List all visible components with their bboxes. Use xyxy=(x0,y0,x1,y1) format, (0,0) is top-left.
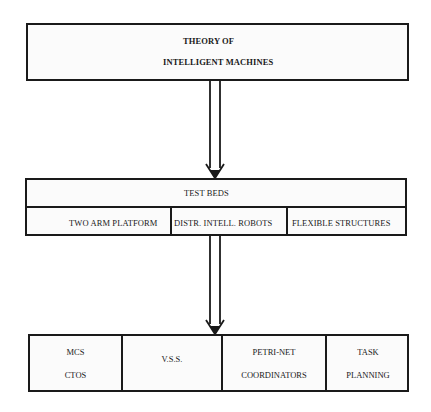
cell-petri-net-line1: PETRI-NET xyxy=(253,347,296,357)
cell-mcs-ctos-line2: CTOS xyxy=(65,370,87,380)
cell-task-planning-line2: PLANNING xyxy=(346,370,389,380)
methods-box: MCS CTOS V.S.S. PETRI-NET COORDINATORS T… xyxy=(28,334,409,392)
cell-petri-net-line2: COORDINATORS xyxy=(241,370,307,380)
cell-mcs-ctos-line1: MCS xyxy=(67,347,85,357)
cell-vss-line1: V.S.S. xyxy=(162,354,183,364)
cell-task-planning: TASK PLANNING xyxy=(327,336,409,390)
cell-vss: V.S.S. xyxy=(123,336,221,382)
cell-petri-net: PETRI-NET COORDINATORS xyxy=(223,336,325,390)
cell-mcs-ctos: MCS CTOS xyxy=(30,336,121,390)
cell-task-planning-line1: TASK xyxy=(357,347,379,357)
